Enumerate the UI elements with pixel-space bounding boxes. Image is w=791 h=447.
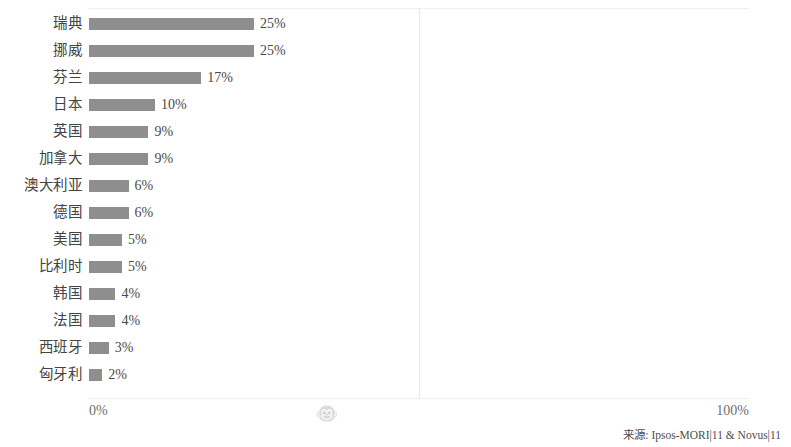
bar <box>89 315 115 327</box>
monkey-face-icon: 🐵 <box>315 404 339 423</box>
table-row: 瑞典25% <box>89 10 749 37</box>
bar-category-label: 日本 <box>53 97 82 112</box>
bar-value-label: 2% <box>108 368 127 382</box>
axis-tick-label-100: 100% <box>716 404 749 418</box>
bar-value-label: 5% <box>128 233 147 247</box>
bar <box>89 72 201 84</box>
bar <box>89 207 129 219</box>
bar-category-label: 美国 <box>53 232 82 247</box>
bar <box>89 342 109 354</box>
table-row: 匈牙利2% <box>89 361 749 388</box>
bar-value-label: 4% <box>121 287 140 301</box>
bar-category-label: 挪威 <box>53 43 82 58</box>
bar <box>89 99 155 111</box>
bar-value-label: 9% <box>154 152 173 166</box>
bar <box>89 153 148 165</box>
table-row: 西班牙3% <box>89 334 749 361</box>
axis-tick-label-0: 0% <box>89 404 108 418</box>
bar-category-label: 英国 <box>53 124 82 139</box>
bar-value-label: 5% <box>128 260 147 274</box>
table-row: 英国9% <box>89 118 749 145</box>
bar-category-label: 匈牙利 <box>39 367 83 382</box>
bar-value-label: 9% <box>154 125 173 139</box>
bar-category-label: 德国 <box>53 205 82 220</box>
bar-value-label: 25% <box>260 44 286 58</box>
table-row: 美国5% <box>89 226 749 253</box>
bar-category-label: 比利时 <box>39 259 83 274</box>
bar-chart: 瑞典25%挪威25%芬兰17%日本10%英国9%加拿大9%澳大利亚6%德国6%美… <box>0 0 791 447</box>
bar-category-label: 加拿大 <box>39 151 83 166</box>
table-row: 芬兰17% <box>89 64 749 91</box>
plot-area: 瑞典25%挪威25%芬兰17%日本10%英国9%加拿大9%澳大利亚6%德国6%美… <box>89 8 749 399</box>
table-row: 韩国4% <box>89 280 749 307</box>
bar <box>89 369 102 381</box>
table-row: 比利时5% <box>89 253 749 280</box>
bar-category-label: 法国 <box>53 313 82 328</box>
table-row: 日本10% <box>89 91 749 118</box>
bar-value-label: 6% <box>135 206 154 220</box>
bar <box>89 234 122 246</box>
bar-value-label: 17% <box>207 71 233 85</box>
bar <box>89 180 129 192</box>
bar-value-label: 6% <box>135 179 154 193</box>
bar-value-label: 25% <box>260 17 286 31</box>
table-row: 澳大利亚6% <box>89 172 749 199</box>
table-row: 加拿大9% <box>89 145 749 172</box>
table-row: 德国6% <box>89 199 749 226</box>
table-row: 挪威25% <box>89 37 749 64</box>
bar-category-label: 韩国 <box>53 286 82 301</box>
bar <box>89 288 115 300</box>
table-row: 法国4% <box>89 307 749 334</box>
bar-value-label: 4% <box>121 314 140 328</box>
bar-row-list: 瑞典25%挪威25%芬兰17%日本10%英国9%加拿大9%澳大利亚6%德国6%美… <box>89 8 749 399</box>
bar <box>89 45 254 57</box>
bar-category-label: 芬兰 <box>53 70 82 85</box>
bar <box>89 126 148 138</box>
bar-category-label: 瑞典 <box>53 16 82 31</box>
source-note: 来源: Ipsos-MORI|11 & Novus|11 <box>623 430 781 442</box>
bar-category-label: 澳大利亚 <box>24 178 82 193</box>
bar <box>89 261 122 273</box>
bar-category-label: 西班牙 <box>39 340 83 355</box>
bar <box>89 18 254 30</box>
bar-value-label: 10% <box>161 98 187 112</box>
bar-value-label: 3% <box>115 341 134 355</box>
